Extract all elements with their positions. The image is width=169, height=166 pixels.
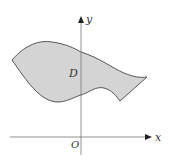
diagram-canvas: y x O D: [0, 0, 169, 166]
x-axis-arrow-icon: [145, 134, 152, 140]
region-label: D: [68, 67, 78, 80]
x-axis-label: x: [155, 131, 162, 144]
origin-label: O: [71, 139, 79, 150]
region-d-shape: [12, 42, 147, 102]
y-axis-label: y: [85, 13, 93, 26]
y-axis-arrow-icon: [78, 16, 84, 23]
